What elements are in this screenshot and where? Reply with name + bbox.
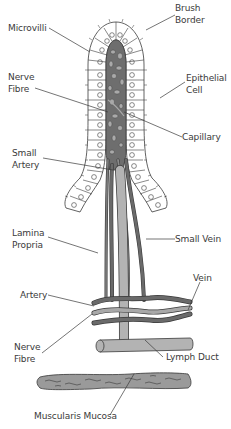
- label-vein: Vein: [193, 272, 212, 284]
- label-lamina-propria: Lamina Propria: [12, 227, 44, 251]
- lymph-duct: [96, 338, 193, 352]
- label-small-vein: Small Vein: [175, 233, 221, 245]
- label-capillary: Capillary: [182, 131, 221, 143]
- villus-core: [106, 40, 126, 170]
- label-small-artery: Small Artery: [12, 147, 39, 171]
- submucosal-vessels: [94, 297, 190, 323]
- label-lymph-duct: Lymph Duct: [166, 351, 219, 363]
- villus-diagram: Brush Border Microvilli Nerve Fibre Epit…: [0, 0, 231, 429]
- label-nerve-fibre-bottom: Nerve Fibre: [14, 341, 40, 365]
- label-muscularis-mucosa: Muscularis Mucosa: [34, 410, 117, 422]
- label-nerve-fibre-top: Nerve Fibre: [8, 71, 34, 95]
- label-artery: Artery: [20, 289, 47, 301]
- muscularis-mucosa-band: [37, 373, 191, 390]
- label-epithelial-cell: Epithelial Cell: [186, 72, 227, 96]
- label-microvilli: Microvilli: [8, 22, 47, 34]
- label-brush-border: Brush Border: [175, 2, 205, 26]
